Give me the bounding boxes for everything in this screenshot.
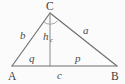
triangle-diagram-canvas: C A B b a c h c q p — [0, 0, 125, 84]
vertex-label-b: B — [111, 70, 119, 82]
edge-a-right — [50, 13, 117, 66]
vertex-label-a: A — [8, 70, 17, 82]
side-label-a: a — [83, 24, 89, 36]
triangle-diagram: C A B b a c h c q p — [0, 0, 125, 84]
side-label-b: b — [20, 29, 26, 41]
segment-label-q: q — [29, 52, 35, 64]
altitude-label-h-subscript: c — [50, 36, 53, 43]
right-angle-arc-icon — [44, 21, 58, 24]
side-label-c: c — [57, 69, 62, 81]
segment-label-p: p — [74, 52, 81, 64]
vertex-label-c: C — [46, 0, 54, 12]
altitude-label-h: h — [43, 30, 49, 42]
